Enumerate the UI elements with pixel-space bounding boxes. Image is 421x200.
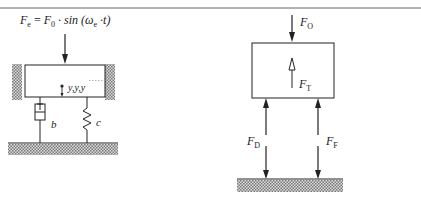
damper: b: [35, 97, 57, 143]
damper-label: b: [51, 118, 57, 130]
left-system: Fe = F0 · sin (ωe ·t) y,y,y . . . . .: [8, 13, 118, 155]
top-force-arrow: FO: [289, 15, 313, 42]
top-force-label: FO: [299, 15, 313, 31]
ground-hatch-left: [8, 144, 118, 155]
damper-force-label: FD: [246, 134, 260, 150]
spring-force-label: FF: [325, 134, 338, 150]
excitation-equation: Fe = F0 · sin (ωe ·t): [19, 13, 110, 29]
right-free-body: FO FT FD FF: [237, 15, 343, 192]
excitation-arrow: [62, 34, 68, 64]
right-guide-wall: [105, 64, 115, 100]
dot-marks: . . . . .: [89, 76, 103, 82]
left-guide-wall: [12, 64, 22, 100]
damper-force-arrows: FD: [246, 98, 269, 179]
spring: c: [83, 97, 101, 143]
spring-force-arrows: FF: [315, 98, 338, 179]
vibration-diagram: Fe = F0 · sin (ωe ·t) y,y,y . . . . .: [0, 0, 421, 200]
displacement-label: y,y,y: [67, 82, 86, 93]
ground-hatch-right: [237, 180, 343, 192]
spring-label: c: [96, 116, 101, 128]
